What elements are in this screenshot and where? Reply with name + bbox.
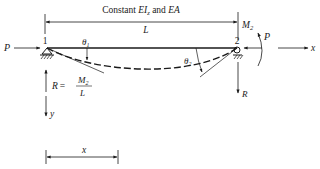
theta2-label: θ2 xyxy=(184,56,191,67)
load-P-right-label: P xyxy=(263,31,270,42)
beam-diagram: Constant EIz and EA L θ1 θ2 1 2 P xyxy=(0,0,320,169)
y-axis-label: y xyxy=(49,109,55,119)
node2-label: 2 xyxy=(235,36,240,46)
load-P-left-label: P xyxy=(3,42,10,53)
moment-M2-arrow xyxy=(258,33,262,66)
pin-support-node1 xyxy=(40,48,54,59)
theta1-label: θ1 xyxy=(82,37,89,48)
reaction-fraction-denominator: L xyxy=(79,88,85,98)
theta2-arrow xyxy=(196,48,202,72)
reaction-fraction-numerator: M2 xyxy=(77,75,89,86)
reaction-R-left-label: R= xyxy=(51,81,65,91)
tangent-node1 xyxy=(47,48,104,73)
property-label: Constant EIz and EA xyxy=(102,5,180,16)
moment-M2-label: M2 xyxy=(241,20,254,31)
pin-support-node2 xyxy=(233,47,243,59)
reaction-R-right-label: R xyxy=(241,89,248,99)
deflected-shape xyxy=(47,48,237,69)
length-dimension xyxy=(45,12,238,40)
node1-label: 1 xyxy=(43,36,48,46)
x-dimension-label: x xyxy=(81,145,87,155)
length-label: L xyxy=(142,25,148,35)
x-axis-label: x xyxy=(310,43,316,53)
